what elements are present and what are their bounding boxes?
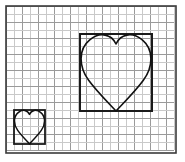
paper-background bbox=[0, 0, 185, 162]
figure-canvas bbox=[0, 0, 185, 162]
heart-enlargement-figure bbox=[0, 0, 185, 162]
